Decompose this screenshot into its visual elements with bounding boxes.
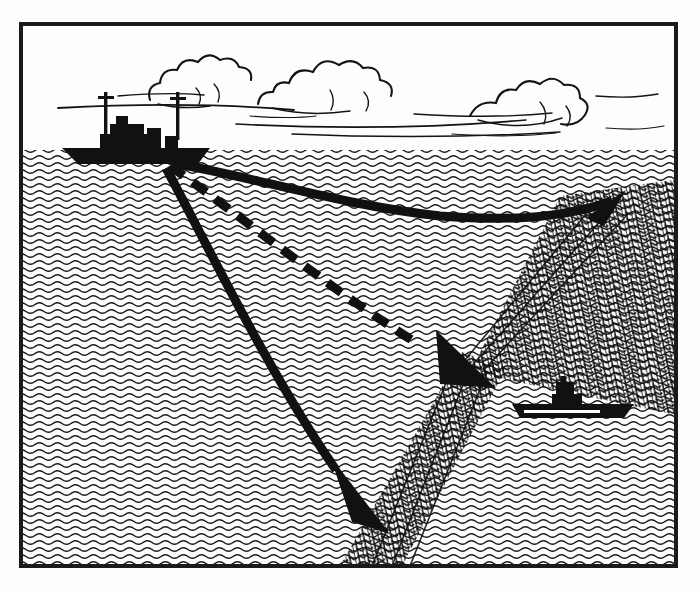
- illustration-canvas: [0, 0, 700, 590]
- sonar-diagram: [0, 0, 700, 590]
